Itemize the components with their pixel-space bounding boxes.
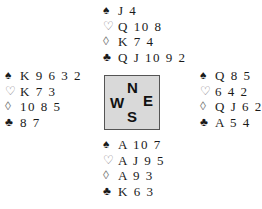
west-label: W [110, 95, 124, 110]
north-hand: ♠J 4 ♡Q 10 8 ◊K 7 4 ♣Q J 10 9 2 [103, 3, 186, 65]
diamond-icon: ◊ [5, 99, 20, 115]
west-hearts: ♡K 7 3 [5, 84, 82, 100]
north-hearts: ♡Q 10 8 [103, 19, 186, 35]
south-hand: ♠A 10 7 ♡A J 9 5 ◊A 9 3 ♣K 6 3 [103, 137, 165, 199]
north-clubs: ♣Q J 10 9 2 [103, 50, 186, 66]
east-diamonds: ◊Q J 6 2 [200, 99, 262, 115]
east-clubs: ♣A 5 4 [200, 115, 262, 131]
south-label: S [127, 109, 137, 124]
diamond-icon: ◊ [103, 168, 118, 184]
east-label: E [143, 93, 153, 108]
club-icon: ♣ [103, 50, 118, 66]
spade-icon: ♠ [103, 3, 118, 19]
east-hearts: ♡6 4 2 [200, 84, 262, 100]
diamond-icon: ◊ [200, 99, 215, 115]
compass-box: N W E S [104, 75, 160, 130]
west-spades: ♠K 9 6 3 2 [5, 68, 82, 84]
south-hearts: ♡A J 9 5 [103, 153, 165, 169]
west-clubs: ♣8 7 [5, 115, 82, 131]
spade-icon: ♠ [5, 68, 20, 84]
east-spades: ♠Q 8 5 [200, 68, 262, 84]
heart-icon: ♡ [200, 84, 215, 100]
spade-icon: ♠ [200, 68, 215, 84]
south-clubs: ♣K 6 3 [103, 184, 165, 200]
north-label: N [127, 80, 138, 95]
club-icon: ♣ [103, 184, 118, 200]
club-icon: ♣ [5, 115, 20, 131]
south-diamonds: ◊A 9 3 [103, 168, 165, 184]
heart-icon: ♡ [103, 153, 118, 169]
heart-icon: ♡ [5, 84, 20, 100]
spade-icon: ♠ [103, 137, 118, 153]
club-icon: ♣ [200, 115, 215, 131]
north-spades: ♠J 4 [103, 3, 186, 19]
west-diamonds: ◊10 8 5 [5, 99, 82, 115]
south-spades: ♠A 10 7 [103, 137, 165, 153]
heart-icon: ♡ [103, 19, 118, 35]
west-hand: ♠K 9 6 3 2 ♡K 7 3 ◊10 8 5 ♣8 7 [5, 68, 82, 130]
east-hand: ♠Q 8 5 ♡6 4 2 ◊Q J 6 2 ♣A 5 4 [200, 68, 262, 130]
diamond-icon: ◊ [103, 34, 118, 50]
north-diamonds: ◊K 7 4 [103, 34, 186, 50]
